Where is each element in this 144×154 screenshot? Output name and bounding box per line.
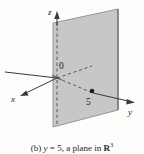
origin-label: 0 bbox=[59, 62, 64, 72]
x-axis-arrowhead bbox=[20, 91, 29, 96]
coordinate-plane-diagram bbox=[0, 0, 144, 154]
y-axis-left-segment bbox=[5, 72, 57, 78]
caption-space-exponent: 3 bbox=[110, 141, 113, 148]
caption-equation-rhs: 5, bbox=[57, 143, 64, 153]
point-label-5: 5 bbox=[86, 98, 91, 108]
point-marker-5 bbox=[90, 89, 95, 94]
z-axis-arrowhead bbox=[54, 11, 60, 19]
axis-label-y: y bbox=[128, 108, 132, 117]
axis-label-x: x bbox=[11, 95, 15, 104]
figure-caption: (b) y = 5, a plane in R3 bbox=[0, 139, 144, 154]
axis-label-z: z bbox=[48, 8, 52, 17]
caption-part-label: (b) bbox=[31, 143, 42, 153]
figure-container: z x y 0 5 (b) y = 5, a plane in R3 bbox=[0, 0, 144, 154]
x-axis-line bbox=[26, 78, 57, 93]
y-axis-arrowhead bbox=[126, 99, 135, 104]
caption-equation-operator: = bbox=[50, 143, 55, 153]
caption-equation-lhs: y bbox=[44, 143, 48, 153]
caption-description: a plane in bbox=[66, 143, 101, 153]
